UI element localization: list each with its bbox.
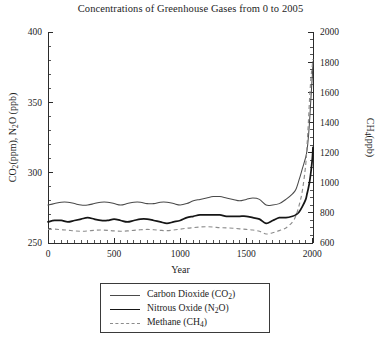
right-tick-label: 600	[320, 238, 335, 248]
series-line-n2o	[48, 147, 313, 223]
right-tick-label: 1800	[320, 58, 339, 68]
left-tick-label: 250	[28, 238, 43, 248]
right-axis-title: CH4(ppb)	[363, 118, 376, 157]
legend-item-ch4: Methane (CH4)	[101, 316, 269, 330]
chart-plot-area: 2503003504006008001000120014001600180020…	[0, 0, 381, 281]
right-tick-label: 800	[320, 208, 335, 218]
x-tick-label: 2000	[303, 249, 322, 259]
series-line-co2	[48, 62, 313, 206]
axes-group: 2503003504006008001000120014001600180020…	[28, 27, 340, 259]
chart-legend: Carbon Dioxide (CO2) Nitrous Oxide (N2O)…	[100, 283, 270, 333]
x-tick-label: 0	[46, 249, 51, 259]
series-line-ch4	[48, 59, 313, 234]
legend-label-co2: Carbon Dioxide (CO2)	[147, 288, 235, 302]
legend-swatch-ch4-icon	[110, 318, 140, 328]
greenhouse-gas-chart-figure: Concentrations of Greenhouse Gases from …	[0, 0, 381, 345]
x-tick-label: 1500	[237, 249, 256, 259]
series-group	[48, 59, 313, 234]
x-tick-label: 1000	[171, 249, 190, 259]
left-tick-label: 350	[28, 98, 43, 108]
x-tick-label: 500	[107, 249, 122, 259]
right-tick-label: 1600	[320, 88, 339, 98]
left-axis-title: CO2(ppm), N2O (ppb)	[7, 93, 20, 183]
right-tick-label: 2000	[320, 27, 339, 37]
legend-label-ch4: Methane (CH4)	[147, 316, 207, 330]
right-tick-label: 1400	[320, 118, 339, 128]
left-tick-label: 400	[28, 27, 43, 37]
right-tick-label: 1200	[320, 148, 339, 158]
right-tick-label: 1000	[320, 178, 339, 188]
legend-item-n2o: Nitrous Oxide (N2O)	[101, 302, 269, 316]
left-tick-label: 300	[28, 168, 43, 178]
legend-swatch-n2o-icon	[110, 304, 140, 314]
legend-label-n2o: Nitrous Oxide (N2O)	[147, 302, 229, 316]
legend-swatch-co2-icon	[110, 290, 140, 300]
chart-title: Concentrations of Greenhouse Gases from …	[0, 3, 381, 14]
legend-item-co2: Carbon Dioxide (CO2)	[101, 288, 269, 302]
x-axis-title: Year	[171, 264, 190, 275]
